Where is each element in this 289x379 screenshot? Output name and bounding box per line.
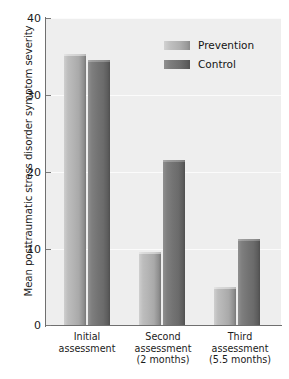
legend-label-control: Control (198, 58, 236, 70)
legend-swatch-prevention-icon (164, 41, 190, 50)
bar-highlight (238, 239, 260, 241)
x-label-line: assessment (197, 343, 283, 355)
y-tick-mark-10 (46, 249, 51, 250)
x-label-line: assessment (45, 343, 129, 355)
bar-control-initial (88, 60, 110, 326)
x-label-line: (2 months) (121, 354, 205, 366)
y-tick-mark-40 (46, 18, 51, 19)
y-tick-mark-0 (46, 325, 51, 326)
legend-item-prevention: Prevention (164, 37, 276, 53)
gridline-40 (45, 18, 281, 19)
bar-highlight (139, 252, 161, 254)
x-axis-labels: Initial assessment Second assessment (2 … (45, 331, 282, 377)
y-tick-label-40: 40 (15, 12, 41, 25)
legend-item-control: Control (164, 56, 276, 72)
x-label-group-second: Second assessment (2 months) (121, 331, 205, 366)
bar-chart-figure: Mean posttraumatic stress disorder sympt… (0, 0, 289, 379)
y-tick-label-20: 20 (15, 166, 41, 179)
bar-prevention-second (139, 252, 161, 326)
bar-highlight (163, 160, 185, 162)
y-axis-tick-marks (46, 0, 52, 379)
x-axis-line (45, 325, 282, 326)
legend-label-prevention: Prevention (198, 39, 254, 51)
x-label-group-initial: Initial assessment (45, 331, 129, 354)
y-tick-mark-20 (46, 172, 51, 173)
bar-highlight (88, 60, 110, 62)
x-label-line: (5.5 months) (197, 354, 283, 366)
y-tick-label-30: 30 (15, 89, 41, 102)
chart-legend: Prevention Control (164, 37, 276, 75)
x-label-line: Initial (45, 331, 129, 343)
bar-highlight (214, 287, 236, 289)
bar-prevention-initial (64, 54, 86, 326)
bar-prevention-third (214, 287, 236, 326)
bar-highlight (64, 54, 86, 56)
y-tick-mark-30 (46, 95, 51, 96)
y-tick-label-10: 10 (15, 243, 41, 256)
x-label-line: Second (121, 331, 205, 343)
bar-control-third (238, 239, 260, 326)
x-label-line: assessment (121, 343, 205, 355)
y-axis-tick-labels: 40 30 20 10 0 (11, 0, 41, 379)
x-label-group-third: Third assessment (5.5 months) (197, 331, 283, 366)
x-label-line: Third (197, 331, 283, 343)
legend-swatch-control-icon (164, 60, 190, 69)
bar-control-second (163, 160, 185, 326)
y-tick-label-0: 0 (15, 319, 41, 332)
